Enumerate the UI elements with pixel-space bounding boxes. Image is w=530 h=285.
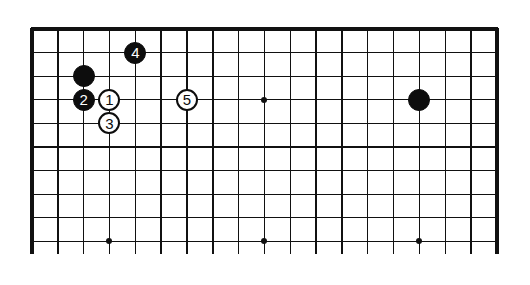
grid-line-horizontal <box>31 52 499 53</box>
grid-line-vertical <box>445 28 446 255</box>
board-edge-vertical <box>30 28 34 255</box>
go-board-diagram: 12345 <box>0 0 530 285</box>
grid-line-vertical <box>419 28 420 255</box>
grid-line-vertical <box>367 28 368 255</box>
board-edge-top <box>31 27 499 31</box>
grid-line-vertical <box>470 28 471 255</box>
grid-line-vertical <box>315 28 316 255</box>
star-point <box>416 238 422 244</box>
grid-line-vertical <box>393 28 394 255</box>
grid-line-horizontal <box>31 170 499 171</box>
grid-line-vertical <box>264 28 265 255</box>
star-point <box>106 238 112 244</box>
black-stone <box>408 89 430 111</box>
star-point <box>261 238 267 244</box>
white-stone-move-3: 3 <box>98 112 120 134</box>
white-stone-move-1: 1 <box>98 89 120 111</box>
grid-line-vertical <box>109 28 110 255</box>
grid-line-horizontal <box>31 217 499 218</box>
grid-line-vertical <box>341 28 342 255</box>
grid-line-vertical <box>83 28 84 255</box>
grid-line-horizontal <box>31 76 499 77</box>
grid-line-vertical <box>57 28 58 255</box>
grid-line-vertical <box>212 28 213 255</box>
grid-line-vertical <box>160 28 161 255</box>
grid-line-vertical <box>238 28 239 255</box>
grid-line-horizontal <box>31 194 499 195</box>
black-stone-move-4: 4 <box>124 42 146 64</box>
black-stone-move-2: 2 <box>73 89 95 111</box>
board-edge-vertical <box>495 28 499 255</box>
move-number: 2 <box>79 92 87 107</box>
move-number: 1 <box>105 92 113 107</box>
white-stone-move-5: 5 <box>176 89 198 111</box>
grid-line-horizontal <box>31 146 499 147</box>
move-number: 4 <box>131 45 139 60</box>
black-stone <box>73 65 95 87</box>
star-point <box>261 97 267 103</box>
grid-line-vertical <box>290 28 291 255</box>
grid-line-vertical <box>186 28 187 255</box>
move-number: 3 <box>105 116 113 131</box>
move-number: 5 <box>183 92 191 107</box>
